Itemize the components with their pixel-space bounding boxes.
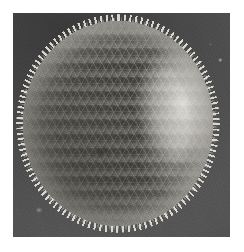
plate-vignette (13, 13, 230, 237)
image-canvas (0, 0, 244, 252)
micrograph-plate (13, 13, 230, 237)
